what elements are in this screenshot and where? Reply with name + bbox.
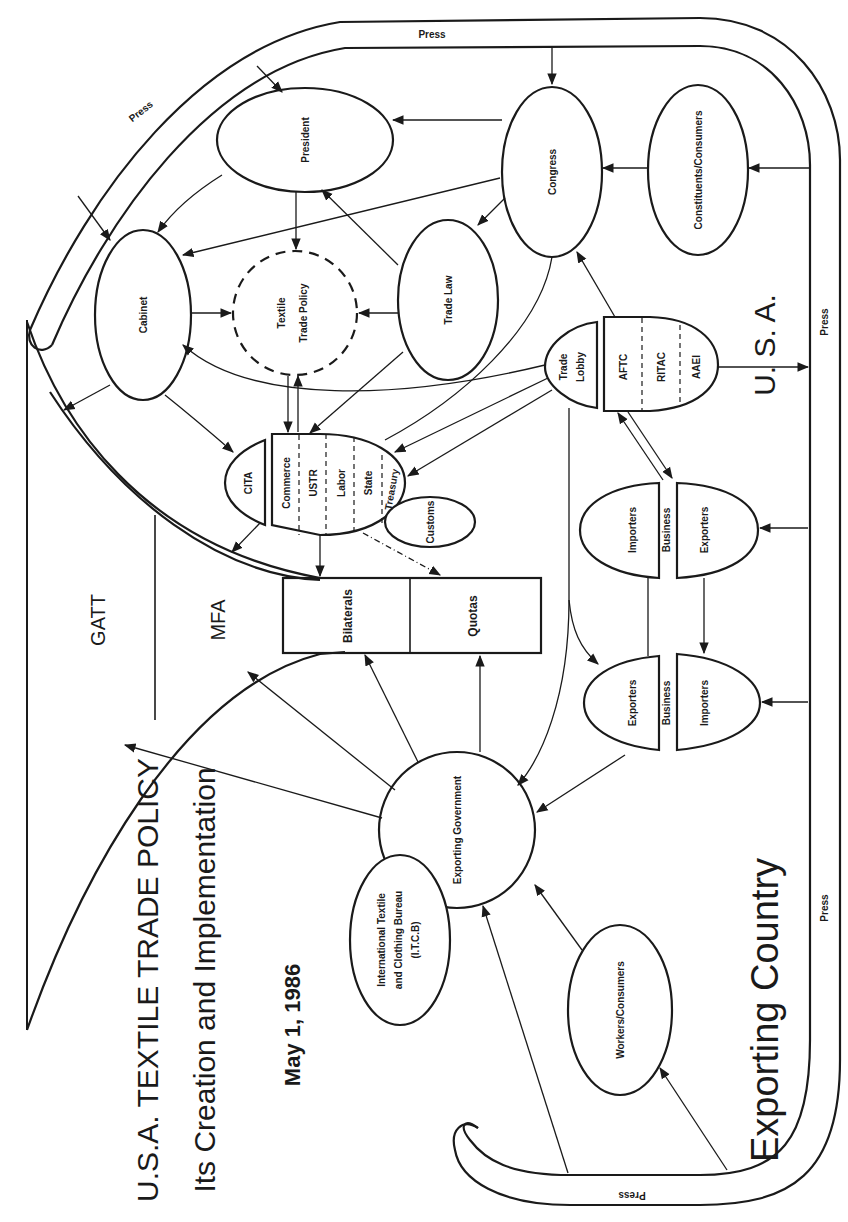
node-us-exporters[interactable]: Exporters — [677, 483, 758, 578]
press-label-bottom: Press — [618, 1190, 646, 1201]
gatt-boundary — [27, 320, 541, 1030]
node-cita[interactable]: CITA — [225, 440, 265, 525]
itcb-label-3: (I.T.C.B) — [410, 921, 421, 958]
node-ex-exporters[interactable]: Exporters — [584, 656, 659, 750]
node-customs[interactable]: Customs — [385, 497, 475, 547]
trade-law-label: Trade Law — [443, 275, 454, 324]
ttp-label-2: Trade Policy — [298, 283, 309, 342]
ttp-label-1: Textile — [276, 297, 287, 328]
region-label-exporting-country: Exporting Country — [744, 858, 786, 1162]
node-trade-law[interactable]: Trade Law — [398, 220, 498, 380]
press-label-right-usa: Press — [819, 308, 830, 336]
ustr-label: USTR — [308, 469, 319, 497]
press-label-top-left: Press — [127, 98, 156, 124]
textile-trade-policy-diagram: President Congress Constituents/Consumer… — [0, 0, 848, 1222]
aftc-label: AFTC — [618, 354, 629, 381]
trade-lobby-label-1: Trade — [558, 353, 569, 380]
trade-lobby-label-2: Lobby — [575, 352, 586, 382]
node-president[interactable]: President — [217, 88, 393, 192]
state-label: State — [363, 470, 374, 495]
node-workers-consumers[interactable]: Workers/Consumers — [568, 925, 672, 1095]
bilaterals-label: Bilaterals — [341, 589, 355, 643]
us-business-label: Business — [661, 507, 672, 552]
itcb-label-1: International Textile — [376, 893, 387, 987]
node-cabinet[interactable]: Cabinet — [95, 230, 191, 400]
quotas-label: Quotas — [466, 595, 480, 637]
labor-label: Labor — [336, 469, 347, 497]
cita-label: CITA — [243, 472, 254, 495]
ex-importers-label: Importers — [699, 680, 710, 727]
customs-label: Customs — [425, 500, 436, 543]
node-us-importers[interactable]: Importers — [580, 483, 659, 578]
diagram-date: May 1, 1986 — [280, 964, 305, 1086]
node-congress[interactable]: Congress — [502, 87, 602, 257]
us-importers-label: Importers — [627, 507, 638, 554]
cabinet-label: Cabinet — [138, 296, 149, 333]
itcb-label-2: and Clothing Bureau — [393, 891, 404, 989]
ex-business-label: Business — [661, 680, 672, 725]
region-label-usa: U. S. A. — [748, 294, 781, 396]
node-constituents-consumers[interactable]: Constituents/Consumers — [648, 85, 748, 255]
press-label-top: Press — [418, 29, 446, 40]
ex-exporters-label: Exporters — [627, 679, 638, 726]
press-label-right-exporting: Press — [819, 894, 830, 922]
us-exporters-label: Exporters — [699, 506, 710, 553]
gatt-label: GATT — [87, 594, 109, 646]
node-itcb[interactable]: International Textile and Clothing Burea… — [350, 855, 450, 1025]
node-ex-importers[interactable]: Importers — [677, 654, 760, 750]
constituents-label: Constituents/Consumers — [693, 110, 704, 229]
workers-consumers-label: Workers/Consumers — [615, 961, 626, 1059]
ritac-label: RITAC — [656, 352, 667, 382]
diagram-title: U.S.A. TEXTILE TRADE POLICY — [131, 758, 164, 1202]
aaei-label: AAEI — [691, 355, 702, 379]
congress-label: Congress — [547, 149, 558, 196]
mfa-label: MFA — [207, 599, 229, 641]
diagram-subtitle: Its Creation and Implementation — [188, 767, 221, 1192]
exporting-government-label: Exporting Government — [452, 775, 463, 884]
node-lobby-groups[interactable]: AFTC RITAC AAEI — [604, 317, 718, 411]
node-trade-lobby[interactable]: Trade Lobby — [545, 322, 597, 408]
commerce-label: Commerce — [281, 457, 292, 509]
node-textile-trade-policy[interactable]: Textile Trade Policy — [233, 251, 357, 375]
president-label: President — [300, 117, 311, 163]
